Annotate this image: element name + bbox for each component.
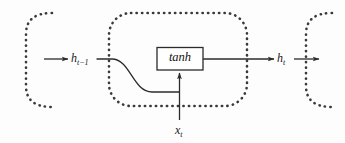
hidden-state-prev-subscript: t−1 bbox=[77, 58, 89, 67]
hidden-state-next-subscript: t bbox=[283, 58, 285, 67]
hidden-state-prev-label: ht−1 bbox=[71, 52, 89, 64]
hidden-state-next-label: ht bbox=[277, 52, 285, 64]
diagram-canvas bbox=[0, 0, 345, 143]
input-subscript: t bbox=[180, 130, 182, 139]
next-timestep-cell bbox=[306, 13, 332, 107]
rnn-cell-diagram: ht−1 ht xt tanh bbox=[0, 0, 345, 143]
previous-timestep-cell bbox=[26, 13, 52, 107]
input-label: xt bbox=[175, 124, 183, 136]
tanh-label: tanh bbox=[158, 51, 202, 64]
